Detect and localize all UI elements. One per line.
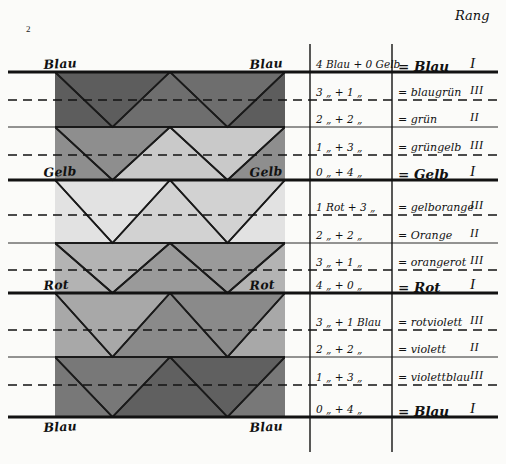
table-cell-rank-5: III — [470, 198, 484, 213]
table-cell-rank-1: III — [470, 83, 484, 98]
table-cell-result-11: = violettblau — [398, 371, 470, 384]
table-cell-rank-4: I — [470, 163, 476, 180]
table-cell-mix-0: 4 Blau + 0 Gelb — [316, 58, 400, 70]
table-cell-mix-10: 2 „ + 2 „ — [316, 343, 362, 355]
table-cell-result-3: = grüngelb — [398, 141, 461, 154]
table-column-dividers — [310, 44, 392, 452]
axis-label-right-blau-0: Blau — [249, 55, 283, 72]
axis-label-left-gelb-1: Gelb — [43, 163, 77, 180]
table-cell-result-12: = Blau — [398, 403, 449, 419]
table-cell-result-0: = Blau — [398, 58, 449, 74]
table-cell-rank-11: III — [470, 368, 484, 383]
table-cell-rank-6: II — [470, 226, 479, 241]
table-cell-rank-12: I — [470, 400, 476, 417]
table-cell-rank-2: II — [470, 110, 479, 125]
table-cell-mix-4: 0 „ + 4 „ — [316, 166, 362, 178]
table-cell-rank-9: III — [470, 313, 484, 328]
axis-label-right-gelb-1: Gelb — [249, 163, 283, 180]
table-cell-mix-9: 3 „ + 1 Blau — [316, 316, 381, 328]
table-cell-mix-7: 3 „ + 1 „ — [316, 256, 362, 268]
table-cell-rank-3: III — [470, 138, 484, 153]
axis-label-left-blau-3: Blau — [43, 418, 77, 435]
axis-label-right-rot-2: Rot — [249, 277, 275, 293]
table-cell-mix-12: 0 „ + 4 „ — [316, 403, 362, 415]
table-cell-mix-5: 1 Rot + 3 „ — [316, 201, 375, 213]
table-cell-rank-8: I — [470, 276, 476, 293]
table-cell-result-7: = orangerot — [398, 256, 466, 269]
table-cell-result-1: = blaugrün — [398, 86, 461, 99]
rank-column-header: Rang — [455, 8, 490, 23]
axis-label-left-blau-0: Blau — [43, 55, 77, 72]
table-cell-mix-11: 1 „ + 3 „ — [316, 371, 362, 383]
table-cell-result-9: = rotviolett — [398, 316, 462, 329]
table-cell-rank-7: III — [470, 253, 484, 268]
table-cell-mix-6: 2 „ + 2 „ — [316, 229, 362, 241]
table-cell-result-5: = gelborange — [398, 201, 474, 214]
table-cell-rank-0: I — [470, 55, 476, 72]
table-cell-mix-8: 4 „ + 0 „ — [316, 279, 362, 291]
axis-label-right-blau-3: Blau — [249, 418, 283, 435]
axis-label-left-rot-2: Rot — [43, 277, 69, 293]
table-cell-mix-3: 1 „ + 3 „ — [316, 141, 362, 153]
table-cell-result-6: = Orange — [398, 229, 452, 242]
scanned-page: 2 BlauGelbRotBlauBlauGelbRotBlau 4 Blau … — [0, 0, 506, 464]
table-cell-result-8: = Rot — [398, 279, 440, 295]
table-cell-result-2: = grün — [398, 113, 437, 126]
table-cell-result-10: = violett — [398, 343, 446, 356]
table-cell-rank-10: II — [470, 340, 479, 355]
table-cell-result-4: = Gelb — [398, 166, 449, 182]
table-cell-mix-2: 2 „ + 2 „ — [316, 113, 362, 125]
table-cell-mix-1: 3 „ + 1 „ — [316, 86, 362, 98]
